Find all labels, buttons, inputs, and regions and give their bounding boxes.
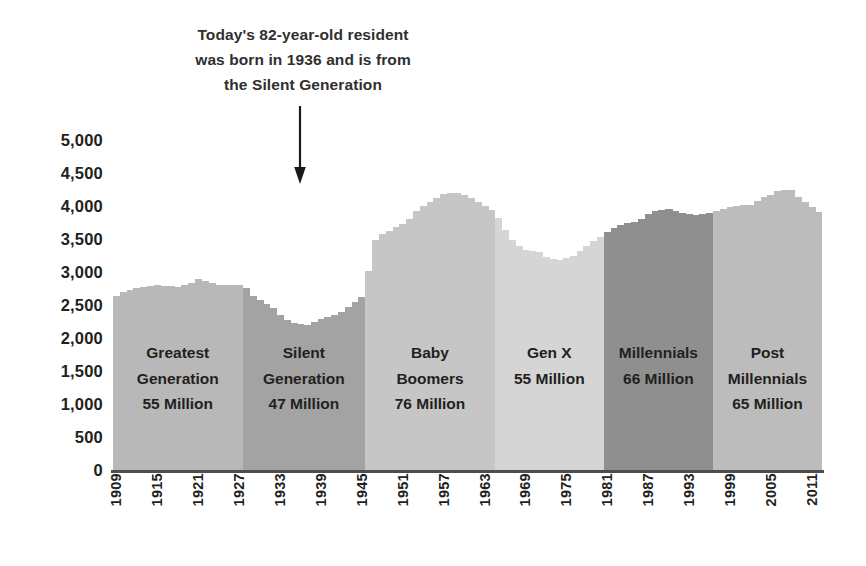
y-axis-tick-label: 4,000 xyxy=(0,197,103,216)
x-axis-tick-label: 1915 xyxy=(149,473,165,506)
y-axis-tick-label: 2,000 xyxy=(0,329,103,348)
x-axis-tick-label: 1921 xyxy=(190,473,206,506)
x-axis-tick-label: 1981 xyxy=(599,473,615,506)
x-axis-tick-label: 1975 xyxy=(558,473,574,506)
y-axis-tick-label: 1,500 xyxy=(0,362,103,381)
birth-year-bar xyxy=(236,285,243,470)
x-axis-tick-label: 1933 xyxy=(272,473,288,506)
y-axis-tick-label: 0 xyxy=(0,461,103,480)
x-axis-tick-label: 1993 xyxy=(681,473,697,506)
birth-year-bar xyxy=(597,237,604,470)
birth-year-bar xyxy=(488,210,495,470)
x-axis-tick-label: 1999 xyxy=(722,473,738,506)
y-axis-tick-label: 2,500 xyxy=(0,296,103,315)
annotation-line-3: the Silent Generation xyxy=(150,72,456,97)
x-axis-tick-label: 1987 xyxy=(640,473,656,506)
y-axis: 05001,0001,5002,0002,5003,0003,5004,0004… xyxy=(0,140,103,470)
annotation-line-2: was born in 1936 and is from xyxy=(150,47,456,72)
birth-year-bar xyxy=(358,297,365,470)
y-axis-tick-label: 4,500 xyxy=(0,164,103,183)
x-axis-tick-label: 1945 xyxy=(354,473,370,506)
y-axis-tick-label: 3,500 xyxy=(0,230,103,249)
x-axis-tick-label: 1939 xyxy=(313,473,329,506)
generation-band-greatest[interactable]: GreatestGeneration55 Million xyxy=(113,140,243,470)
x-axis-tick-label: 2011 xyxy=(804,473,820,506)
x-axis-tick-label: 1927 xyxy=(231,473,247,506)
x-axis-tick-label: 2005 xyxy=(763,473,779,506)
y-axis-tick-label: 500 xyxy=(0,428,103,447)
x-axis-tick-label: 1969 xyxy=(517,473,533,506)
x-axis: 1909191519211927193319391945195119571963… xyxy=(113,473,822,553)
annotation-line-1: Today's 82-year-old resident xyxy=(150,22,456,47)
generation-band-silent[interactable]: SilentGeneration47 Million xyxy=(243,140,366,470)
x-axis-tick-label: 1957 xyxy=(436,473,452,506)
generation-band-post-millennials[interactable]: PostMillennials65 Million xyxy=(713,140,822,470)
birth-year-bar xyxy=(706,213,713,470)
annotation-callout: Today's 82-year-old resident was born in… xyxy=(150,22,456,97)
generation-band-baby-boomers[interactable]: BabyBoomers76 Million xyxy=(365,140,495,470)
x-axis-tick-label: 1951 xyxy=(395,473,411,506)
y-axis-tick-label: 5,000 xyxy=(0,131,103,150)
y-axis-tick-label: 3,000 xyxy=(0,263,103,282)
x-axis-tick-label: 1909 xyxy=(108,473,124,506)
y-axis-tick-label: 1,000 xyxy=(0,395,103,414)
x-axis-tick-label: 1963 xyxy=(477,473,493,506)
generation-band-gen-x[interactable]: Gen X55 Million xyxy=(495,140,604,470)
generation-band-millennials[interactable]: Millennials66 Million xyxy=(604,140,713,470)
chart-plot-area: GreatestGeneration55 MillionSilentGenera… xyxy=(113,140,822,470)
birth-year-bar xyxy=(815,212,822,470)
